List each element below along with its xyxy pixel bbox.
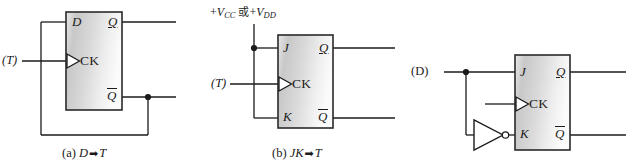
caption-b: (b) JK➡T: [272, 146, 322, 161]
circuit-schematic-svg: [0, 0, 630, 166]
terminal-j-c: J: [520, 64, 526, 80]
caption-a-prefix: (a): [62, 146, 76, 160]
terminal-qbar-b: Q: [318, 109, 327, 125]
caption-a-from: D: [79, 146, 88, 160]
terminal-qbar-b-text: Q: [318, 109, 327, 125]
caption-a: (a) D➡T: [62, 146, 106, 161]
junction-dot-c: [463, 69, 469, 75]
supply-v-2: V: [256, 5, 263, 19]
junction-dot-a: [145, 94, 151, 100]
terminal-ck-a: CK: [80, 53, 99, 69]
terminal-ck-c: CK: [529, 96, 548, 112]
terminal-qbar-c-text: Q: [555, 126, 564, 142]
terminal-k-b: K: [283, 109, 292, 125]
caption-b-from: JK: [290, 146, 304, 160]
junction-dot-b: [251, 45, 257, 51]
input-label-c: (D): [411, 64, 428, 79]
terminal-q-c: Q: [556, 64, 565, 80]
input-label-b: (T): [211, 76, 226, 91]
caption-a-to: T: [99, 146, 106, 160]
terminal-qbar-a-text: Q: [107, 88, 116, 104]
terminal-ck-b: CK: [292, 76, 311, 92]
supply-sub-1: CC: [224, 10, 235, 20]
supply-plus-1: +: [210, 5, 217, 19]
supply-sub-2: DD: [264, 10, 276, 20]
terminal-d-a: D: [72, 14, 81, 30]
terminal-k-c: K: [520, 126, 529, 142]
terminal-qbar-a: Q: [107, 88, 116, 104]
input-label-c-text: (D): [411, 64, 428, 78]
terminal-q-b: Q: [319, 40, 328, 56]
terminal-qbar-c: Q: [555, 126, 564, 142]
figure-canvas: (T) D CK Q Q (a) D➡T +VCC 或+VDD (T) J CK…: [0, 0, 630, 166]
terminal-q-a: Q: [108, 14, 117, 30]
supply-label-b: +VCC 或+VDD: [210, 3, 276, 20]
caption-b-to: T: [315, 146, 322, 160]
caption-b-arrow: ➡: [304, 147, 315, 160]
terminal-j-b: J: [283, 40, 289, 56]
supply-or-word: 或: [238, 6, 249, 19]
inverter-gate-icon: [474, 120, 503, 150]
inverter-bubble-icon: [502, 132, 508, 138]
input-label-a: (T): [2, 53, 17, 68]
caption-b-prefix: (b): [272, 146, 287, 160]
caption-a-arrow: ➡: [88, 147, 99, 160]
